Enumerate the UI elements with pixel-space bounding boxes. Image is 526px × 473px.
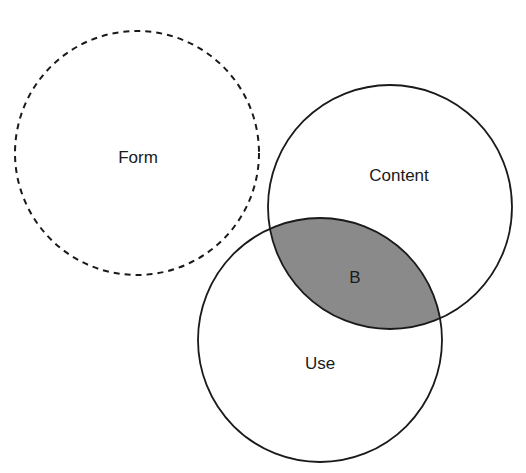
venn-diagram: Form Content B Use: [0, 0, 526, 473]
intersection-b-label: B: [349, 268, 360, 287]
form-label: Form: [118, 148, 158, 167]
use-label: Use: [305, 354, 335, 373]
intersection-b-region: [198, 218, 442, 462]
content-label: Content: [369, 166, 429, 185]
